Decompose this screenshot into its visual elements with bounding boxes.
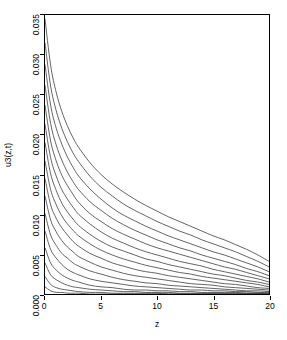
y-axis-title-text: u3(z,t) [3,142,13,166]
y-axis-tick-label: 0.020 [32,134,41,155]
series-line [45,105,269,279]
x-axis-tick-label: 10 [152,302,161,311]
y-axis-tick-label: 0.035 [32,14,41,35]
x-axis: 05101520 [44,296,270,302]
series-line [45,64,269,271]
y-axis-tick-label: 0.030 [32,54,41,75]
x-axis-tick [44,296,45,300]
y-axis-title: u3(z,t) [2,14,14,295]
x-axis-tick [270,296,271,300]
x-axis-tick-label: 20 [265,302,274,311]
plot-area [44,14,270,295]
x-axis-title: z [44,319,270,329]
series-line [45,143,269,285]
y-axis-tick-label: 0.015 [32,175,41,196]
x-axis-tick [214,296,215,300]
y-axis-tick-label: 0.025 [32,94,41,115]
x-axis-tick [101,296,102,300]
x-axis-tick-label: 5 [98,302,103,311]
x-axis-tick [157,296,158,300]
series-line [45,43,269,267]
series-line [45,161,269,287]
y-axis-tick-label: 0.005 [32,255,41,276]
series-lines [45,15,269,294]
figure-canvas: 0.0000.0050.0100.0150.0200.0250.0300.035… [0,0,287,340]
x-axis-tick-label: 15 [209,302,218,311]
series-line [45,85,269,276]
y-axis-tick-label: 0.000 [32,295,41,316]
x-axis-tick-label: 0 [42,302,47,311]
y-axis-tick-label: 0.010 [32,215,41,236]
series-line [45,178,269,288]
series-line [45,196,269,290]
